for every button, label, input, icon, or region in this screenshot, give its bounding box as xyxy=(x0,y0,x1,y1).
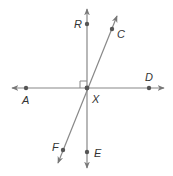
label-a: A xyxy=(22,95,29,106)
point-r xyxy=(85,22,89,26)
label-c: C xyxy=(117,29,125,40)
label-e: E xyxy=(94,148,101,159)
label-r: R xyxy=(74,19,82,30)
point-e xyxy=(85,150,89,154)
geometry-diagram: R C D A X F E xyxy=(0,0,173,176)
point-f xyxy=(61,148,65,152)
label-d: D xyxy=(145,72,153,83)
point-x xyxy=(85,86,90,91)
label-f: F xyxy=(52,142,59,153)
point-a xyxy=(24,86,28,90)
point-c xyxy=(110,27,114,31)
point-d xyxy=(147,86,151,90)
diagram-svg xyxy=(0,0,173,176)
label-x: X xyxy=(92,94,99,105)
